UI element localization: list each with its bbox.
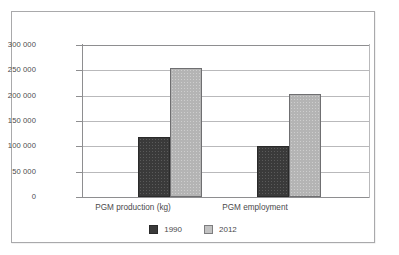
bar-2012-pgm-production[interactable] xyxy=(170,68,202,197)
legend-swatch-icon-1990 xyxy=(149,225,158,234)
legend-label-1990: 1990 xyxy=(164,226,182,234)
plot-right-border xyxy=(369,44,370,198)
gridline-50000 xyxy=(83,172,369,173)
gridline-250000 xyxy=(83,70,369,71)
gridline-200000 xyxy=(83,96,369,97)
y-axis-tick-label: 200 000 xyxy=(8,92,36,100)
legend: 1990 2012 xyxy=(12,225,374,234)
legend-item-1990[interactable]: 1990 xyxy=(149,225,182,234)
x-axis-category-label-pgm-employment: PGM employment xyxy=(200,204,310,212)
bar-2012-pgm-employment[interactable] xyxy=(289,94,321,197)
y-axis-tick-label: 300 000 xyxy=(8,41,36,49)
x-axis-line xyxy=(82,197,370,198)
y-axis-tick-label: 50 000 xyxy=(12,168,36,176)
gridline-100000 xyxy=(83,146,369,147)
y-axis-tick-label: 150 000 xyxy=(8,117,36,125)
gridline-300000 xyxy=(83,45,369,46)
legend-swatch-icon-2012 xyxy=(204,225,213,234)
plot-area xyxy=(83,45,369,197)
legend-label-2012: 2012 xyxy=(219,226,237,234)
x-axis-category-label-pgm-production: PGM production (kg) xyxy=(78,204,188,212)
chart-frame: 300 000 250 000 200 000 150 000 100 000 … xyxy=(11,11,375,243)
y-axis-tick-label: 250 000 xyxy=(8,66,36,74)
bar-1990-pgm-production[interactable] xyxy=(138,137,170,197)
gridline-150000 xyxy=(83,121,369,122)
y-axis-tick-label: 100 000 xyxy=(8,142,36,150)
legend-item-2012[interactable]: 2012 xyxy=(204,225,237,234)
bar-1990-pgm-employment[interactable] xyxy=(257,146,289,197)
y-axis-tick-label: 0 xyxy=(32,193,36,201)
